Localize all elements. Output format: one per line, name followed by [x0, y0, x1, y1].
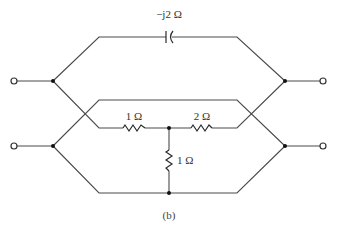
- resistor-vertical-label: 1 Ω: [177, 154, 193, 166]
- wire-top-left: [53, 37, 166, 81]
- node-left-bottom: [51, 144, 55, 148]
- resistor-right-label: 2 Ω: [194, 110, 210, 122]
- resistor-vertical-icon: [166, 150, 172, 171]
- terminal-right-bottom-icon: [320, 143, 326, 149]
- wire-to-left-resistor: [53, 81, 123, 128]
- node-bottom-center: [167, 191, 171, 195]
- figure-caption: (b): [163, 209, 176, 222]
- resistor-left-label: 1 Ω: [126, 110, 142, 122]
- node-left-top: [51, 79, 55, 83]
- terminal-right-top-icon: [320, 78, 326, 84]
- node-right-bottom: [283, 144, 287, 148]
- terminal-left-bottom-icon: [11, 143, 17, 149]
- node-center: [167, 126, 171, 130]
- wire-from-right-resistor: [212, 81, 285, 128]
- terminal-left-top-icon: [11, 78, 17, 84]
- capacitor-label: −j2 Ω: [156, 8, 182, 20]
- node-right-top: [283, 79, 287, 83]
- circuit-diagram: −j2 Ω 1 Ω 2 Ω 1 Ω (b): [0, 0, 338, 233]
- capacitor-icon: [166, 31, 173, 43]
- resistor-right-icon: [191, 125, 212, 131]
- wire-top-right: [172, 37, 285, 81]
- resistor-left-icon: [123, 125, 145, 131]
